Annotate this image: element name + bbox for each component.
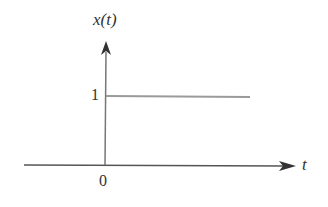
step-function-plot [0, 0, 328, 207]
y-tick-label: 1 [91, 86, 99, 104]
t-axis [24, 165, 286, 166]
x-axis [105, 52, 106, 165]
y-axis-label: x(t) [93, 10, 117, 30]
x-tick-label: 0 [99, 172, 107, 190]
step-signal [106, 96, 250, 97]
x-axis-label: t [302, 155, 307, 175]
